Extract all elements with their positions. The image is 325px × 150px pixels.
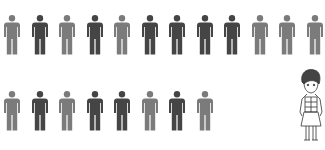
person-icon xyxy=(224,15,240,55)
person-icon xyxy=(87,91,103,131)
person-icon xyxy=(114,91,130,131)
person-icon xyxy=(32,15,48,55)
girl-illustration-icon xyxy=(294,68,325,148)
person-icon xyxy=(4,91,20,131)
person-icon xyxy=(114,15,130,55)
person-icon xyxy=(279,15,295,55)
person-icon xyxy=(4,15,20,55)
person-icon xyxy=(197,15,213,55)
person-icon xyxy=(169,15,185,55)
person-icon xyxy=(169,91,185,131)
person-icon xyxy=(59,91,75,131)
person-icon xyxy=(87,15,103,55)
person-row-2 xyxy=(4,91,213,131)
person-icon xyxy=(252,15,268,55)
person-icon xyxy=(142,15,158,55)
person-icon xyxy=(32,91,48,131)
person-icon xyxy=(307,15,323,55)
person-icon xyxy=(59,15,75,55)
person-icon xyxy=(142,91,158,131)
person-row-1 xyxy=(4,15,323,55)
person-icon xyxy=(197,91,213,131)
